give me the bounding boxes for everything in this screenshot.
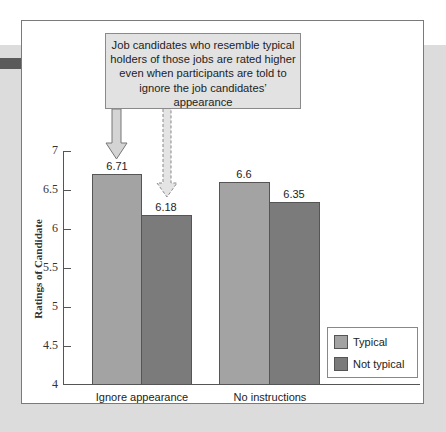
callout-line: appearance: [106, 95, 300, 109]
bar-not-typical-no-instructions: [269, 202, 320, 385]
x-category-label: Ignore appearance: [72, 391, 212, 403]
callout-line: holders of those jobs are rated higher: [106, 52, 300, 66]
legend-swatch-not-typical: [334, 357, 348, 371]
x-category-label: No instructions: [200, 391, 340, 403]
legend: Typical Not typical: [327, 327, 418, 378]
y-tick-label: 5.5: [18, 260, 58, 275]
y-tick: [63, 151, 71, 152]
bar-typical-ignore-appearance: [92, 174, 142, 385]
y-tick-label: 5: [18, 299, 58, 314]
y-tick-label: 6.5: [18, 182, 58, 197]
y-tick: [63, 346, 71, 347]
bar-value-label: 6.6: [219, 168, 269, 180]
bar-not-typical-ignore-appearance: [141, 215, 192, 385]
legend-label: Typical: [353, 336, 387, 348]
legend-item-typical: Typical: [334, 334, 387, 350]
bar-value-label: 6.18: [141, 201, 191, 213]
callout-line: Job candidates who resemble typical: [106, 38, 300, 52]
bar-typical-no-instructions: [219, 182, 270, 385]
bar-value-label: 6.35: [269, 188, 319, 200]
y-tick: [63, 190, 71, 191]
y-tick-label: 7: [18, 143, 58, 158]
legend-label: Not typical: [353, 358, 404, 370]
y-tick-label: 6: [18, 221, 58, 236]
solid-arrow-icon: [106, 109, 127, 159]
y-tick-label: 4: [18, 377, 58, 392]
legend-swatch-typical: [334, 335, 348, 349]
callout-line: ignore the job candidates’: [106, 81, 300, 95]
callout-line: even when participants are told to: [106, 66, 300, 80]
y-tick: [63, 229, 71, 230]
y-tick-label: 4.5: [18, 338, 58, 353]
y-tick: [63, 268, 71, 269]
bar-value-label: 6.71: [92, 160, 142, 172]
y-tick: [63, 307, 71, 308]
legend-item-not-typical: Not typical: [334, 356, 404, 372]
dashed-arrow-icon: [157, 109, 177, 197]
annotation-callout: Job candidates who resemble typical hold…: [105, 33, 301, 109]
